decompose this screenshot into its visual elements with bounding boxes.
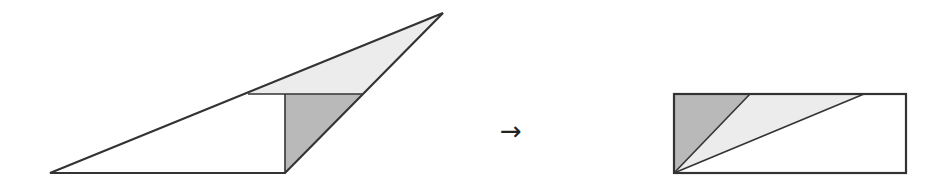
- right-figure: [674, 94, 906, 173]
- transform-arrow-icon: →: [500, 118, 522, 144]
- white-region: [50, 94, 285, 173]
- left-figure: [50, 13, 443, 173]
- dissection-diagram: [0, 0, 943, 185]
